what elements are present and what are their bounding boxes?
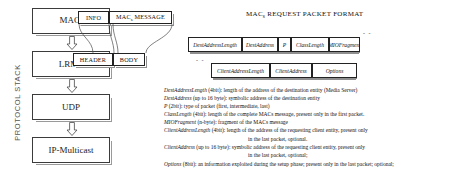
packet-field-dest-address[interactable]: DestAddress <box>242 37 278 52</box>
packet-field-class-length-label: ClassLength <box>296 42 324 48</box>
message-expansion-connectors <box>70 24 180 54</box>
protocol-stack-axis-label: PROTOCOL STACK <box>13 55 22 151</box>
packet-field-class-length[interactable]: ClassLength <box>291 37 329 52</box>
packet-continuation-marker-top: - - <box>363 30 372 36</box>
stack-arrow-lrmp-udp <box>66 79 75 93</box>
stack-node-udp-label: UDP <box>62 102 80 112</box>
figure-canvas: PROTOCOL STACK MACs LRMP UDP IP-Multicas… <box>0 0 457 184</box>
legend-term: ClassLength <box>164 111 192 117</box>
packet-field-mio-fragment[interactable]: MIOFragment <box>329 37 360 52</box>
packet-field-client-address-label: ClientAddress <box>275 68 307 74</box>
legend-item: ClientAddressLength (4bit): length of th… <box>164 126 456 134</box>
stack-node-ip-multicast-label: IP-Multicast <box>49 145 94 155</box>
legend-desc: (4bit): length of the address of the des… <box>207 87 357 93</box>
legend-desc: (8bit): an information exploited during … <box>181 161 393 167</box>
stack-node-udp[interactable]: UDP <box>32 94 110 120</box>
legend-item: ClientAddress (up to 16 byte): symbolic … <box>164 143 456 151</box>
message-box-info-label: INFO <box>86 14 101 21</box>
message-box-macs-message-label: MACs MESSAGE <box>116 13 165 22</box>
legend-desc: (4bit): length of the address of the req… <box>210 127 367 133</box>
legend-term: MIOFragment <box>164 119 196 125</box>
message-box-macs-message[interactable]: MACs MESSAGE <box>109 11 172 24</box>
stack-node-ip-multicast[interactable]: IP-Multicast <box>32 137 110 163</box>
legend-term: DestAddress <box>164 95 192 101</box>
legend-desc: (up to 16 byte): symbolic address of the… <box>192 95 320 101</box>
packet-field-client-address[interactable]: ClientAddress <box>270 63 312 78</box>
legend-term: DestAddressLength <box>164 87 207 93</box>
message-box-body-label: BODY <box>120 56 138 63</box>
legend-item: DestAddress (up to 16 byte): symbolic ad… <box>164 94 456 102</box>
message-box-header-label: HEADER <box>80 56 106 63</box>
legend-desc: (n-byte): fragment of the MACs message <box>196 119 288 125</box>
packet-row2-shadow <box>213 78 356 80</box>
packet-field-dest-address-length[interactable]: DestAddressLength <box>188 37 242 52</box>
legend-list: DestAddressLength (4bit): length of the … <box>164 86 456 168</box>
packet-continuation-marker-bottom: - - <box>196 57 205 63</box>
legend-item: ClassLength (4bit): length of the comple… <box>164 110 456 118</box>
legend-term: ClientAddressLength <box>164 127 210 133</box>
packet-field-options-label: Options <box>326 68 344 74</box>
stack-arrow-udp-ipmulticast <box>66 122 75 136</box>
legend-item: P (2bit): type of packet (first, interme… <box>164 102 456 110</box>
packet-field-client-address-length[interactable]: ClientAddressLength <box>211 63 270 78</box>
legend-continuation: in the last packet, optional; <box>164 151 456 159</box>
legend-continuation: in the last packet, optional. <box>164 135 456 143</box>
packet-field-dest-address-length-label: DestAddressLength <box>193 42 237 48</box>
legend-item: DestAddressLength (4bit): length of the … <box>164 86 456 94</box>
packet-field-client-address-length-label: ClientAddressLength <box>217 68 264 74</box>
message-box-info[interactable]: INFO <box>78 11 109 24</box>
legend-term: ClientAddress <box>164 144 195 150</box>
legend-item: Options (8bit): an information exploited… <box>164 160 456 168</box>
legend-desc: (4bit): length of the complete MACs mess… <box>192 111 365 117</box>
packet-field-p[interactable]: P <box>278 37 291 52</box>
legend-desc: (2bit): type of packet (first, intermedi… <box>167 103 269 109</box>
packet-row1-shadow <box>190 52 359 54</box>
message-box-header[interactable]: HEADER <box>73 53 113 66</box>
legend-item: MIOFragment (n-byte): fragment of the MA… <box>164 118 456 126</box>
packet-field-p-label: P <box>283 42 286 48</box>
packet-field-dest-address-label: DestAddress <box>246 42 274 48</box>
message-box-body[interactable]: BODY <box>113 53 145 66</box>
legend-desc: (up to 16 byte): symbolic address of the… <box>195 144 365 150</box>
legend-term: Options <box>164 161 181 167</box>
packet-field-mio-fragment-label: MIOFragment <box>329 42 360 48</box>
packet-format-title: MACs REQUEST PACKET FORMAT <box>246 10 363 19</box>
packet-field-options[interactable]: Options <box>312 63 357 78</box>
